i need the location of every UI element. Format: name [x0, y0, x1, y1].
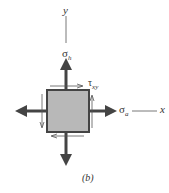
y-axis-label: y: [63, 5, 68, 16]
stress-element-diagram: [0, 0, 169, 193]
sigma-h-label: σh: [62, 48, 71, 62]
x-axis-label: x: [160, 104, 165, 115]
sigma-a-label: σa: [119, 104, 128, 118]
figure-caption: (b): [82, 173, 94, 183]
sigma-h-subscript: h: [68, 54, 72, 62]
tau-xy-label: τxy: [88, 78, 98, 91]
sigma-a-subscript: a: [125, 110, 129, 118]
stress-element-square: [47, 90, 89, 132]
tau-xy-subscript: xy: [92, 83, 98, 91]
